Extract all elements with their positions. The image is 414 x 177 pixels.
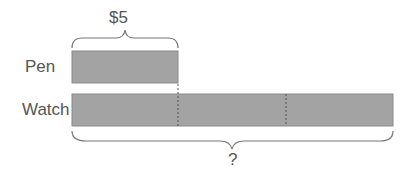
top-brace — [72, 30, 178, 48]
bar-model-diagram: $5 Pen Watch ? — [0, 0, 414, 177]
watch-bar — [72, 94, 393, 126]
pen-bar — [72, 51, 178, 83]
bottom-brace — [72, 131, 393, 149]
bar-model-graphics — [0, 0, 414, 177]
